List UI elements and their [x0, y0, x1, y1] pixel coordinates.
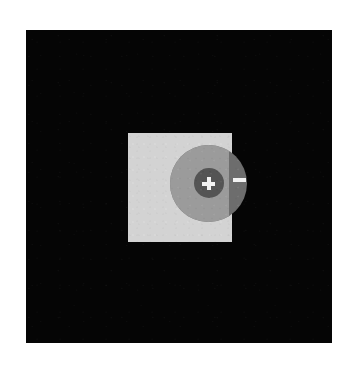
zoom-in-label: Zoom in: [202, 177, 203, 178]
zoom-out-label: Zoom out: [233, 178, 234, 179]
screenshot-root: Zoom in Zoom out: [0, 0, 357, 376]
plus-icon-vertical-bar: [207, 177, 211, 190]
minus-icon[interactable]: Zoom out: [233, 178, 246, 182]
dark-canvas-viewport: Zoom in Zoom out: [26, 30, 332, 343]
plus-icon[interactable]: Zoom in: [202, 177, 215, 190]
